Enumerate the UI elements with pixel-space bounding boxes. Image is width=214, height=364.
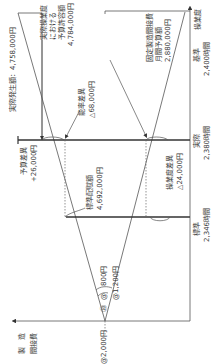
actual-label: 実際 xyxy=(193,134,202,148)
cost-axis-label-2: 間接費 xyxy=(30,333,39,354)
standard-hours: 2,346時間 xyxy=(203,208,212,242)
standard-label: 標準 xyxy=(193,222,202,236)
cost-axis-label-1: 製 造 xyxy=(18,333,27,354)
variable-rate-label: @ 800円 xyxy=(100,266,109,300)
actual-cost-label: 実際発生額：4,758,000円 xyxy=(9,27,18,112)
fixed-rate-label: @1,200円 xyxy=(112,266,121,300)
activity-axis-label: 操業度 xyxy=(194,9,203,30)
standard-allocation-label: 標準配賦額 xyxy=(86,175,95,210)
base-label: 基準 xyxy=(193,48,202,62)
budget-at-actual-label-3: 予算許容額 xyxy=(58,5,67,40)
efficiency-variance-label: 能率差異 xyxy=(78,88,87,116)
budget-variance-value: +26,000円 xyxy=(30,145,39,182)
fixed-budget-label-2: 月間予算額 xyxy=(155,27,164,62)
variable-rate-marker: ⑳ xyxy=(100,305,109,312)
actual-hours: 2,380時間 xyxy=(203,126,212,160)
total-rate-label: @2,000円 xyxy=(100,330,109,364)
volume-variance-value: △24,000円 xyxy=(176,153,185,190)
efficiency-variance-value: △68,000円 xyxy=(88,81,97,118)
fixed-budget-label-1: 固定製造間接費 xyxy=(146,13,155,62)
standard-allocation-value: 4,692,000円 xyxy=(96,167,105,210)
base-hours: 2,400時間 xyxy=(203,42,212,76)
fixed-budget-value: 2,880,000円 xyxy=(164,19,173,62)
budget-at-actual-label-2: における xyxy=(49,12,58,40)
budget-at-actual-label-1: 実際操業度 xyxy=(40,5,49,40)
budget-at-actual-value: 4,784,000円 xyxy=(67,3,76,46)
volume-variance-label: 操業度差異 xyxy=(166,155,175,190)
budget-variance-label: 予算差異 xyxy=(20,147,29,175)
